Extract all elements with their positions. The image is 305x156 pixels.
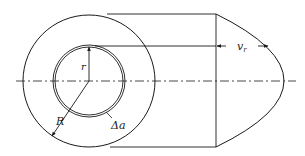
pipe-flow-diagram: r R Δa vr xyxy=(0,0,305,156)
vr-subscript: r xyxy=(243,46,247,54)
r-label: r xyxy=(81,61,87,72)
vr-label: vr xyxy=(237,40,247,54)
R-label: R xyxy=(55,115,64,128)
delta-a-label: Δa xyxy=(110,119,126,132)
delta-a-leader xyxy=(106,112,112,118)
parabolic-profile xyxy=(216,14,284,147)
